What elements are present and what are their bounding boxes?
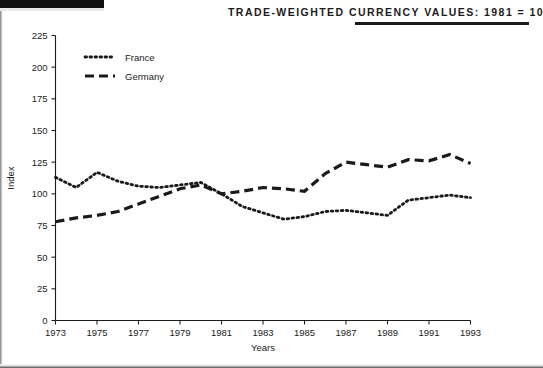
x-tick-label: 1985 xyxy=(294,327,315,338)
y-tick-label: 125 xyxy=(32,157,48,168)
x-tick-label: 1977 xyxy=(128,327,149,338)
chart-svg: 0255075100125150175200225197319751977197… xyxy=(0,0,543,368)
line-chart: 0255075100125150175200225197319751977197… xyxy=(0,0,543,368)
x-tick-label: 1993 xyxy=(460,327,481,338)
y-tick-label: 50 xyxy=(37,252,48,263)
y-tick-label: 175 xyxy=(32,93,48,104)
x-tick-label: 1989 xyxy=(377,327,398,338)
y-tick-label: 150 xyxy=(32,125,48,136)
page-bottom-edge xyxy=(0,364,543,368)
legend-label-germany: Germany xyxy=(125,71,164,82)
x-tick-label: 1975 xyxy=(86,327,107,338)
x-tick-label: 1973 xyxy=(45,327,66,338)
y-tick-label: 75 xyxy=(37,220,48,231)
y-tick-label: 200 xyxy=(32,62,48,73)
page-canvas: Trade-Weighted Currency Values: 1981 = 1… xyxy=(0,0,543,368)
x-tick-label: 1983 xyxy=(252,327,273,338)
x-tick-label: 1979 xyxy=(169,327,190,338)
x-axis-title: Years xyxy=(251,342,275,353)
y-tick-label: 225 xyxy=(32,30,48,41)
x-tick-label: 1991 xyxy=(418,327,439,338)
x-tick-label: 1981 xyxy=(211,327,232,338)
y-tick-label: 100 xyxy=(32,188,48,199)
x-tick-label: 1987 xyxy=(335,327,356,338)
y-tick-label: 0 xyxy=(42,315,47,326)
page-left-edge xyxy=(0,11,3,364)
y-axis-title: Index xyxy=(5,166,16,189)
y-tick-label: 25 xyxy=(37,283,48,294)
legend-label-france: France xyxy=(125,52,155,63)
